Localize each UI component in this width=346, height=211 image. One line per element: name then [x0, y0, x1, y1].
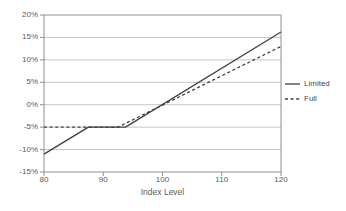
dashed-line-swatch-icon: [285, 97, 300, 101]
y-axis-tick-label: 15%: [6, 32, 38, 42]
payoff-line-chart: 20%15%10%5%0%-5%-10%-15% 8090100110120 I…: [0, 0, 346, 211]
series-line-limited: [44, 32, 281, 154]
y-axis-tick-label: -5%: [6, 122, 38, 132]
x-axis-tick-label: 110: [207, 175, 237, 185]
y-axis-tick-label: 5%: [6, 77, 38, 87]
x-axis-tick-label: 90: [88, 175, 118, 185]
legend-item-limited: Limited: [285, 78, 330, 90]
x-axis-tick-label: 100: [148, 175, 178, 185]
series-line-full: [44, 46, 281, 127]
y-axis-tick-label: 0%: [6, 100, 38, 110]
solid-line-swatch-icon: [285, 82, 300, 86]
y-axis-tick-label: 20%: [6, 10, 38, 20]
legend-label-full: Full: [304, 94, 317, 104]
x-axis-title: Index Level: [44, 187, 281, 197]
x-axis-tick-label: 120: [266, 175, 296, 185]
y-axis-tick-label: -10%: [6, 145, 38, 155]
legend-label-limited: Limited: [304, 79, 330, 89]
legend: Limited Full: [285, 78, 330, 105]
y-axis-tick-label: 10%: [6, 55, 38, 65]
x-axis-tick-label: 80: [29, 175, 59, 185]
plot-border: [44, 15, 281, 172]
legend-item-full: Full: [285, 93, 330, 105]
